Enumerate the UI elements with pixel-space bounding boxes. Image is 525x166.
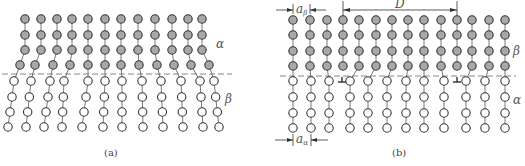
atom-alpha bbox=[68, 15, 76, 23]
d-spacing-dimension: D bbox=[343, 0, 457, 16]
atom-beta bbox=[501, 16, 509, 24]
atom-alpha bbox=[307, 124, 315, 132]
panel-b-semicoherent-interface bbox=[280, 16, 516, 132]
atom-alpha bbox=[325, 109, 333, 117]
atom-alpha bbox=[420, 77, 428, 85]
atom-beta bbox=[84, 77, 92, 85]
atom-alpha bbox=[420, 93, 428, 101]
atom-beta bbox=[437, 31, 445, 39]
atom-alpha bbox=[117, 15, 125, 23]
atom-beta bbox=[453, 31, 461, 39]
atom-beta bbox=[420, 47, 428, 55]
atom-alpha bbox=[101, 31, 109, 39]
atom-beta bbox=[355, 62, 363, 70]
atom-beta bbox=[388, 62, 396, 70]
atom-beta bbox=[453, 62, 461, 70]
atom-alpha bbox=[170, 61, 178, 69]
atom-alpha bbox=[402, 124, 410, 132]
atom-alpha bbox=[198, 15, 206, 23]
atom-beta bbox=[404, 47, 412, 55]
atom-alpha bbox=[383, 77, 391, 85]
atom-alpha bbox=[68, 46, 76, 54]
atom-alpha bbox=[184, 15, 192, 23]
atom-alpha bbox=[501, 93, 509, 101]
atom-alpha bbox=[481, 77, 489, 85]
atom-beta bbox=[339, 47, 347, 55]
atom-beta bbox=[372, 16, 380, 24]
atom-alpha bbox=[364, 109, 372, 117]
atom-beta bbox=[210, 77, 218, 85]
atom-alpha bbox=[364, 124, 372, 132]
atom-alpha bbox=[346, 109, 354, 117]
atom-beta bbox=[501, 62, 509, 70]
atom-alpha bbox=[198, 31, 206, 39]
atom-alpha bbox=[481, 124, 489, 132]
atom-alpha bbox=[481, 93, 489, 101]
atom-beta bbox=[289, 31, 297, 39]
atom-beta bbox=[339, 16, 347, 24]
atom-alpha bbox=[21, 46, 29, 54]
atom-alpha bbox=[117, 46, 125, 54]
atom-alpha bbox=[53, 46, 61, 54]
atom-beta bbox=[501, 47, 509, 55]
atom-alpha bbox=[462, 77, 470, 85]
atom-beta bbox=[58, 123, 66, 131]
atom-beta bbox=[501, 31, 509, 39]
atom-beta bbox=[59, 93, 67, 101]
atom-alpha bbox=[151, 46, 159, 54]
atom-beta bbox=[437, 62, 445, 70]
atom-alpha bbox=[37, 31, 45, 39]
atom-beta bbox=[404, 62, 412, 70]
atom-beta bbox=[157, 77, 165, 85]
atom-alpha bbox=[307, 93, 315, 101]
atom-alpha bbox=[31, 61, 39, 69]
atom-beta bbox=[99, 123, 107, 131]
atom-beta bbox=[177, 77, 185, 85]
atom-beta bbox=[139, 123, 147, 131]
interface-diagram: α β (a) β α (b) aβ D aα bbox=[0, 0, 525, 166]
atom-alpha bbox=[440, 109, 448, 117]
atom-alpha bbox=[462, 93, 470, 101]
a-beta-dimension: aβ bbox=[276, 2, 326, 17]
atom-alpha bbox=[420, 124, 428, 132]
atom-alpha bbox=[501, 77, 509, 85]
atom-alpha bbox=[289, 109, 297, 117]
atom-beta bbox=[211, 93, 219, 101]
atom-beta bbox=[420, 62, 428, 70]
atom-beta bbox=[355, 16, 363, 24]
atom-beta bbox=[323, 62, 331, 70]
atom-alpha bbox=[168, 46, 176, 54]
atom-alpha bbox=[135, 61, 143, 69]
atom-alpha bbox=[134, 15, 142, 23]
atom-beta bbox=[6, 108, 14, 116]
atom-alpha bbox=[346, 77, 354, 85]
phase-label-alpha-b: α bbox=[513, 93, 521, 107]
atom-alpha bbox=[383, 124, 391, 132]
atom-beta bbox=[118, 108, 126, 116]
atom-beta bbox=[404, 31, 412, 39]
atom-alpha bbox=[420, 109, 428, 117]
atom-beta bbox=[468, 47, 476, 55]
caption-a: (a) bbox=[104, 147, 118, 158]
atom-alpha bbox=[184, 31, 192, 39]
atom-beta bbox=[44, 93, 52, 101]
atom-beta bbox=[22, 123, 30, 131]
atom-alpha bbox=[101, 15, 109, 23]
atom-alpha bbox=[101, 46, 109, 54]
atom-alpha bbox=[205, 61, 213, 69]
atom-alpha bbox=[198, 46, 206, 54]
caption-b: (b) bbox=[392, 147, 406, 158]
d-label: D bbox=[394, 0, 405, 11]
atom-beta bbox=[437, 16, 445, 24]
atom-beta bbox=[420, 16, 428, 24]
atom-alpha bbox=[53, 31, 61, 39]
atom-beta bbox=[99, 108, 107, 116]
atom-alpha bbox=[21, 15, 29, 23]
atom-alpha bbox=[289, 124, 297, 132]
atom-alpha bbox=[501, 124, 509, 132]
atom-alpha bbox=[346, 93, 354, 101]
phase-label-beta-a: β bbox=[224, 92, 232, 106]
atom-alpha bbox=[168, 15, 176, 23]
atom-beta bbox=[118, 77, 126, 85]
atom-beta bbox=[80, 108, 88, 116]
